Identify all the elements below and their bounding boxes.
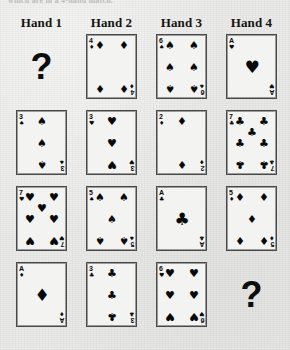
suit-icon-heart: ♥ xyxy=(165,289,175,300)
card-pip-area: ♣♣♣ xyxy=(92,266,132,323)
suit-icon-spade: ♠ xyxy=(165,40,175,51)
card-pip-area: ♦ xyxy=(22,266,62,323)
playing-card[interactable]: 3♣3♣♣♣♣ xyxy=(86,262,137,327)
suit-icon-diamond: ♦ xyxy=(235,192,245,203)
card-pip-area: ♠♠♠♠♠ xyxy=(92,190,132,247)
card-slot-r3c1[interactable]: 7♥7♥♥♥♥♥♥♥♥ xyxy=(16,186,67,251)
card-slot-r4c2[interactable]: 3♣3♣♣♣♣ xyxy=(86,262,137,327)
card-pip-area: ♥♥♥♥♥♥♥ xyxy=(22,190,62,247)
suit-icon-spade: ♠ xyxy=(119,234,129,245)
card-slot-r4c4[interactable]: ? xyxy=(226,262,277,327)
card-pip-area: ♦♦ xyxy=(162,114,202,171)
unknown-card-placeholder[interactable]: ? xyxy=(16,34,67,99)
card-pip-area: ♣♣♣♣♣♣♣ xyxy=(232,114,272,171)
suit-icon-diamond: ♦ xyxy=(95,82,105,93)
suit-icon-heart: ♥ xyxy=(189,310,199,321)
card-pip-area: ♥♥♥ xyxy=(92,114,132,171)
card-slot-r3c3[interactable]: A♣A♣♣ xyxy=(156,186,207,251)
card-slot-r2c2[interactable]: 3♥3♥♥♥♥ xyxy=(86,110,137,175)
playing-card[interactable]: 6♥6♥♥♥♥♥♥♥ xyxy=(156,262,207,327)
card-slot-r1c4[interactable]: A♥A♥♥ xyxy=(226,34,277,99)
suit-icon-diamond: ♦ xyxy=(177,116,187,127)
suit-icon-diamond: ♦ xyxy=(119,82,129,93)
card-pip-area: ♦♦♦♦♦ xyxy=(232,190,272,247)
card-pip-area: ♥ xyxy=(232,38,272,95)
suit-icon-diamond: ♦ xyxy=(247,213,257,224)
suit-icon-spade: ♠ xyxy=(119,192,129,203)
card-slot-r1c1[interactable]: ? xyxy=(16,34,67,99)
suit-icon-club: ♣ xyxy=(259,116,269,127)
suit-icon-heart: ♥ xyxy=(107,137,117,148)
card-pip-area: ♥♥♥♥♥♥ xyxy=(162,266,202,323)
suit-icon-diamond: ♦ xyxy=(34,286,49,303)
suit-icon-spade: ♠ xyxy=(95,234,105,245)
playing-card[interactable]: 3♠3♠♠♠♠ xyxy=(16,110,67,175)
suit-icon-diamond: ♦ xyxy=(259,192,269,203)
playing-card[interactable]: A♣A♣♣ xyxy=(156,186,207,251)
suit-icon-heart: ♥ xyxy=(37,202,47,213)
suit-icon-spade: ♠ xyxy=(37,158,47,169)
suit-icon-spade: ♠ xyxy=(95,192,105,203)
suit-icon-club: ♣ xyxy=(259,158,269,169)
suit-icon-spade: ♠ xyxy=(107,213,117,224)
card-slot-r1c3[interactable]: 6♠6♠♠♠♠♠♠♠ xyxy=(156,34,207,99)
card-slot-r1c2[interactable]: 4♦4♦♦♦♦♦ xyxy=(86,34,137,99)
card-grid: ?4♦4♦♦♦♦♦6♠6♠♠♠♠♠♠♠A♥A♥♥3♠3♠♠♠♠3♥3♥♥♥♥2♦… xyxy=(0,0,290,350)
suit-icon-heart: ♥ xyxy=(49,213,59,224)
suit-icon-club: ♣ xyxy=(107,289,117,300)
playing-card[interactable]: 5♠5♠♠♠♠♠♠ xyxy=(86,186,137,251)
suit-icon-spade: ♠ xyxy=(37,137,47,148)
playing-card[interactable]: 7♥7♥♥♥♥♥♥♥♥ xyxy=(16,186,67,251)
suit-icon-club: ♣ xyxy=(235,116,245,127)
playing-card[interactable]: 7♣7♣♣♣♣♣♣♣♣ xyxy=(226,110,277,175)
card-pip-area: ♠♠♠♠♠♠ xyxy=(162,38,202,95)
suit-icon-spade: ♠ xyxy=(189,61,199,72)
playing-card[interactable]: A♦A♦♦ xyxy=(16,262,67,327)
suit-icon-spade: ♠ xyxy=(189,40,199,51)
suit-icon-diamond: ♦ xyxy=(177,158,187,169)
playing-card[interactable]: 6♠6♠♠♠♠♠♠♠ xyxy=(156,34,207,99)
playing-card[interactable]: 5♦5♦♦♦♦♦♦ xyxy=(226,186,277,251)
card-slot-r3c2[interactable]: 5♠5♠♠♠♠♠♠ xyxy=(86,186,137,251)
suit-icon-diamond: ♦ xyxy=(119,40,129,51)
suit-icon-diamond: ♦ xyxy=(95,40,105,51)
suit-icon-heart: ♥ xyxy=(25,234,35,245)
card-pip-area: ♣ xyxy=(162,190,202,247)
suit-icon-heart: ♥ xyxy=(49,234,59,245)
suit-icon-diamond: ♦ xyxy=(235,234,245,245)
playing-card[interactable]: 2♦2♦♦♦ xyxy=(156,110,207,175)
suit-icon-heart: ♥ xyxy=(49,192,59,203)
suit-icon-heart: ♥ xyxy=(189,289,199,300)
suit-icon-diamond: ♦ xyxy=(259,234,269,245)
suit-icon-heart: ♥ xyxy=(189,268,199,279)
playing-card[interactable]: 4♦4♦♦♦♦♦ xyxy=(86,34,137,99)
suit-icon-club: ♣ xyxy=(174,210,189,227)
unknown-card-placeholder[interactable]: ? xyxy=(226,262,277,327)
suit-icon-heart: ♥ xyxy=(165,310,175,321)
card-slot-r4c1[interactable]: A♦A♦♦ xyxy=(16,262,67,327)
suit-icon-heart: ♥ xyxy=(165,268,175,279)
card-slot-r2c4[interactable]: 7♣7♣♣♣♣♣♣♣♣ xyxy=(226,110,277,175)
card-slot-r2c3[interactable]: 2♦2♦♦♦ xyxy=(156,110,207,175)
suit-icon-heart: ♥ xyxy=(107,116,117,127)
suit-icon-club: ♣ xyxy=(235,137,245,148)
suit-icon-heart: ♥ xyxy=(244,58,259,75)
card-slot-r3c4[interactable]: 5♦5♦♦♦♦♦♦ xyxy=(226,186,277,251)
suit-icon-club: ♣ xyxy=(247,126,257,137)
suit-icon-heart: ♥ xyxy=(107,158,117,169)
suit-icon-spade: ♠ xyxy=(165,82,175,93)
card-slot-r2c1[interactable]: 3♠3♠♠♠♠ xyxy=(16,110,67,175)
suit-icon-club: ♣ xyxy=(107,268,117,279)
suit-icon-club: ♣ xyxy=(107,310,117,321)
suit-icon-club: ♣ xyxy=(259,137,269,148)
playing-card[interactable]: A♥A♥♥ xyxy=(226,34,277,99)
playing-card[interactable]: 3♥3♥♥♥♥ xyxy=(86,110,137,175)
suit-icon-spade: ♠ xyxy=(37,116,47,127)
suit-icon-spade: ♠ xyxy=(165,61,175,72)
suit-icon-spade: ♠ xyxy=(189,82,199,93)
card-slot-r4c3[interactable]: 6♥6♥♥♥♥♥♥♥ xyxy=(156,262,207,327)
suit-icon-heart: ♥ xyxy=(25,192,35,203)
suit-icon-heart: ♥ xyxy=(25,213,35,224)
suit-icon-club: ♣ xyxy=(235,158,245,169)
card-pip-area: ♦♦♦♦ xyxy=(92,38,132,95)
